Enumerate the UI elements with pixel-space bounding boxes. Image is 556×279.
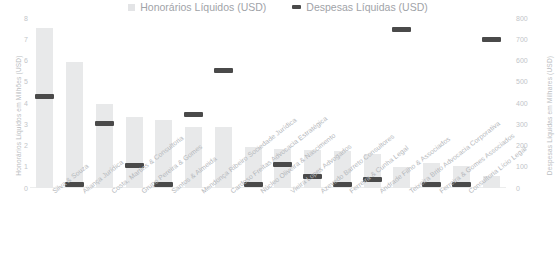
y-axis-right-tick-label: 400 — [516, 100, 542, 107]
legend-item-honorarios: Honorários Líquidos (USD) — [128, 1, 266, 13]
y-axis-left-tick-label: 7 — [10, 36, 28, 43]
marker-despesas — [184, 112, 203, 117]
y-axis-right-tick-label: 800 — [516, 15, 542, 22]
y-axis-left-ticks: 012345678 — [10, 0, 28, 279]
marker-despesas — [95, 121, 114, 126]
x-axis-category-label: Silva & Souza — [51, 189, 55, 195]
x-axis-category-label: Costa, Martins & Consultoria — [110, 189, 114, 195]
y-axis-left-tick-label: 4 — [10, 100, 28, 107]
legend-label-despesas: Despesas Líquidas (USD) — [306, 1, 427, 13]
x-axis-category-label: Aliança Jurídica — [81, 189, 85, 195]
chart-container: Honorários Líquidos (USD) Despesas Líqui… — [0, 0, 556, 279]
y-axis-right-tick-label: 700 — [516, 36, 542, 43]
bar-honorarios — [36, 28, 53, 188]
marker-despesas — [35, 94, 54, 99]
marker-despesas — [482, 37, 501, 42]
x-axis-category-label: Vieira Lopes Advogados — [289, 189, 293, 195]
x-axis-category-label: Andrade Filho & Associados — [378, 189, 382, 195]
dash-swatch-icon — [292, 5, 301, 9]
x-axis-category-label: Teixeira Brito Advocacia Corporativa — [408, 189, 412, 195]
y-axis-left-tick-label: 3 — [10, 121, 28, 128]
legend-label-honorarios: Honorários Líquidos (USD) — [140, 1, 266, 13]
x-axis-category-label: Ferreira & Gomes Associados — [438, 189, 442, 195]
x-axis-category-label: Consultoria Lício Legal — [467, 189, 471, 195]
y-axis-left-tick-label: 2 — [10, 142, 28, 149]
y-axis-left-tick-label: 6 — [10, 57, 28, 64]
y-axis-left-tick-label: 5 — [10, 78, 28, 85]
square-swatch-icon — [128, 4, 135, 11]
x-axis-category-label: Azevedo Barreto Consultores — [319, 189, 323, 195]
marker-despesas — [392, 27, 411, 32]
marker-despesas — [214, 68, 233, 73]
x-axis-category-label: Ferreira & Cunha Legal — [348, 189, 352, 195]
y-axis-right-tick-label: 100 — [516, 163, 542, 170]
chart-legend: Honorários Líquidos (USD) Despesas Líqui… — [0, 1, 556, 13]
x-axis-category-label: Cardoso Freitas Advocacia Estratégica — [229, 189, 233, 195]
y-axis-left-tick-label: 0 — [10, 185, 28, 192]
y-axis-left-tick-label: 8 — [10, 15, 28, 22]
y-axis-right-tick-label: 0 — [516, 185, 542, 192]
y-axis-right-title: Despesas Líquidas em Milhares (USD) — [546, 46, 553, 186]
x-axis-category-label: Santos & Almeida — [170, 189, 174, 195]
y-axis-right-ticks: 0100200300400500600700800 — [516, 0, 542, 279]
x-axis-category-label: Mendonça Ribeiro Sociedade Jurídica — [200, 189, 204, 195]
legend-item-despesas: Despesas Líquidas (USD) — [292, 1, 427, 13]
y-axis-right-tick-label: 300 — [516, 121, 542, 128]
y-axis-right-tick-label: 500 — [516, 78, 542, 85]
y-axis-left-tick-label: 1 — [10, 163, 28, 170]
y-axis-right-tick-label: 600 — [516, 57, 542, 64]
x-axis-category-label: Núcleo Oliveira & Nascimento — [259, 189, 263, 195]
x-axis-category-label: Grupo Pereira & Gomes — [140, 189, 144, 195]
x-axis-category-labels: Silva & SouzaAliança JurídicaCosta, Mart… — [30, 189, 506, 279]
